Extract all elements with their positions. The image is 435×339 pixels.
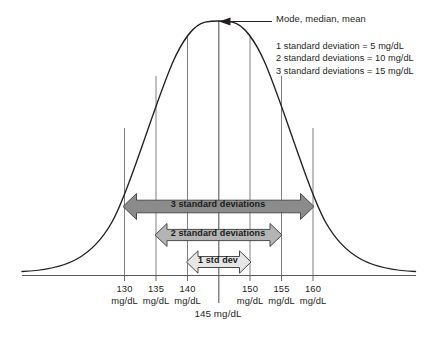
band-1-std-label: 1 std dev [184, 255, 252, 265]
x-tick-label-160: 160 mg/dL [291, 283, 335, 306]
mode-median-mean-callout-arrow [219, 18, 272, 26]
legend-item-2-std: 2 standard deviations = 10 mg/dL [276, 53, 414, 65]
legend-item-1-std: 1 standard deviation = 5 mg/dL [276, 41, 414, 53]
mode-median-mean-label: Mode, median, mean [276, 13, 366, 25]
legend: 1 standard deviation = 5 mg/dL 2 standar… [276, 41, 414, 78]
mean-value-label: 145 mg/dL [178, 308, 258, 319]
band-2-std-label: 2 standard deviations [160, 228, 276, 238]
x-tick-label-140: 140 mg/dL [166, 283, 210, 306]
band-3-std-label: 3 standard deviations [134, 199, 302, 209]
legend-item-3-std: 3 standard deviations = 15 mg/dL [276, 66, 414, 78]
normal-distribution-figure: Mode, median, mean 1 standard deviation … [0, 0, 435, 339]
